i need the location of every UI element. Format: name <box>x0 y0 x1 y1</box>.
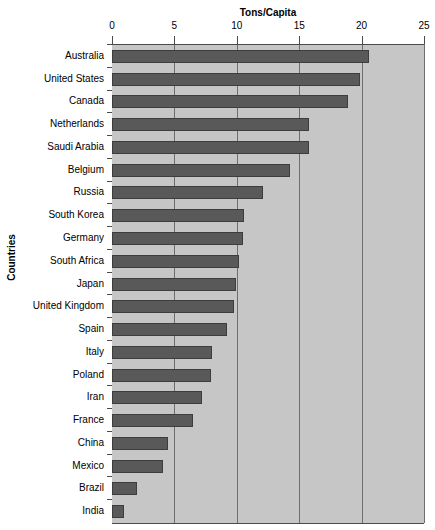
y-tick-mark <box>107 294 112 295</box>
category-label: China <box>78 437 104 448</box>
bar <box>112 391 202 404</box>
x-tick-mark <box>112 36 113 44</box>
bar <box>112 346 212 359</box>
y-tick-mark <box>107 499 112 500</box>
bar <box>112 50 369 63</box>
bar <box>112 414 193 427</box>
category-label: India <box>82 505 104 516</box>
category-label: Belgium <box>68 164 104 175</box>
plot-right-border <box>424 44 425 523</box>
gridline <box>237 45 238 523</box>
y-tick-mark <box>107 408 112 409</box>
category-label: South Africa <box>50 255 104 266</box>
category-label: Canada <box>69 95 104 106</box>
y-tick-mark <box>107 135 112 136</box>
category-label: Poland <box>73 369 104 380</box>
y-tick-mark <box>107 181 112 182</box>
bar <box>112 278 236 291</box>
category-label: Brazil <box>79 482 104 493</box>
x-tick-mark <box>424 36 425 44</box>
category-label: Japan <box>77 278 104 289</box>
bar <box>112 505 124 518</box>
category-label: United States <box>44 73 104 84</box>
y-tick-mark <box>107 385 112 386</box>
x-tick-mark <box>174 36 175 44</box>
bar <box>112 255 239 268</box>
y-tick-mark <box>107 249 112 250</box>
y-tick-mark <box>107 44 112 45</box>
x-tick-label: 0 <box>97 20 127 32</box>
bar <box>112 232 243 245</box>
category-label: Mexico <box>72 460 104 471</box>
bar <box>112 369 211 382</box>
plot-area <box>112 44 424 524</box>
y-tick-mark <box>107 158 112 159</box>
x-tick-mark <box>299 36 300 44</box>
x-tick-mark <box>362 36 363 44</box>
bar <box>112 164 290 177</box>
bar <box>112 186 263 199</box>
y-tick-mark <box>107 454 112 455</box>
y-tick-mark <box>107 226 112 227</box>
y-tick-mark <box>107 203 112 204</box>
bar <box>112 300 234 313</box>
bar-chart: Tons/Capita Countries 0510152025 Austral… <box>0 0 435 530</box>
x-tick-label: 10 <box>222 20 252 32</box>
x-axis-title: Tons/Capita <box>112 7 424 19</box>
y-tick-mark <box>107 272 112 273</box>
x-tick-label: 15 <box>284 20 314 32</box>
category-label: Saudi Arabia <box>47 141 104 152</box>
category-label: South Korea <box>48 209 104 220</box>
category-label: Netherlands <box>50 118 104 129</box>
bar <box>112 95 348 108</box>
bar <box>112 482 137 495</box>
y-tick-mark <box>107 67 112 68</box>
y-tick-mark <box>107 363 112 364</box>
y-tick-mark <box>107 317 112 318</box>
category-label: Spain <box>78 323 104 334</box>
category-label: France <box>73 414 104 425</box>
bar <box>112 118 309 131</box>
category-label: Russia <box>73 186 104 197</box>
bar <box>112 141 309 154</box>
y-tick-mark <box>107 431 112 432</box>
category-label: Australia <box>65 50 104 61</box>
gridline <box>299 45 300 523</box>
category-label: Iran <box>87 391 104 402</box>
y-tick-mark <box>107 112 112 113</box>
bar <box>112 437 168 450</box>
x-tick-label: 5 <box>159 20 189 32</box>
y-tick-mark <box>107 340 112 341</box>
chart-title <box>112 0 424 1</box>
y-tick-mark <box>107 90 112 91</box>
y-tick-mark <box>107 476 112 477</box>
x-tick-mark <box>237 36 238 44</box>
y-axis-title: Countries <box>6 223 17 293</box>
x-tick-label: 20 <box>347 20 377 32</box>
bar <box>112 209 244 222</box>
bar <box>112 323 227 336</box>
bar <box>112 460 163 473</box>
bar <box>112 73 360 86</box>
category-label: Germany <box>63 232 104 243</box>
gridline <box>362 45 363 523</box>
category-label: United Kingdom <box>33 300 104 311</box>
x-tick-label: 25 <box>409 20 435 32</box>
category-label: Italy <box>86 346 104 357</box>
